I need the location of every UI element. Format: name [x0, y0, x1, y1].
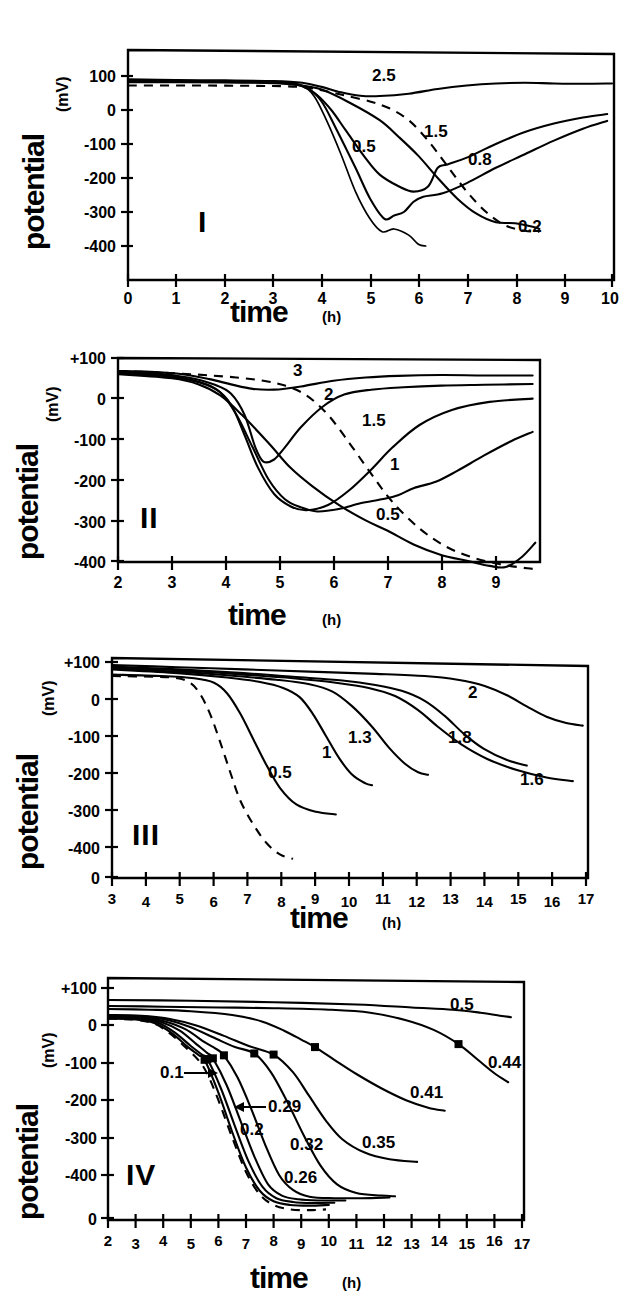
x-tick-label: 5 [176, 890, 184, 907]
x-tick-label: 5 [367, 290, 376, 307]
data-point-marker [455, 1040, 463, 1048]
y-tick-label: -200 [65, 1092, 97, 1109]
panel-III-frame [112, 658, 588, 878]
y-tick-label: 0 [91, 692, 100, 709]
curve-label-0.35: 0.35 [362, 1133, 395, 1152]
data-point-marker [220, 1051, 228, 1059]
y-tick-label: -100 [84, 136, 116, 153]
curve-label-1.5: 1.5 [424, 122, 448, 141]
data-point-marker [270, 1051, 278, 1059]
y-tick-label: -200 [84, 170, 116, 187]
x-tick-label: 10 [320, 1232, 337, 1249]
x-tick-label: 16 [486, 1232, 503, 1249]
y-tick-label: -200 [68, 766, 100, 783]
x-tick-label: 7 [384, 574, 393, 591]
panel-III-curve-labels: 2 1.8 1.6 1.3 1 0.5 [268, 683, 544, 789]
x-tick-label: 13 [403, 1235, 420, 1252]
y-axis-title: potential [17, 134, 50, 250]
curve-label-1: 1 [322, 743, 331, 762]
data-point-marker [250, 1049, 258, 1057]
x-tick-label: 5 [276, 574, 285, 591]
curve-label-0.5: 0.5 [450, 995, 474, 1014]
y-axis-unit: (mV) [44, 386, 61, 422]
panel-number: IV [126, 1158, 156, 1191]
curve-1 [112, 669, 372, 785]
panel-I-curve-labels: 2.5 1.5 0.5 0.8 0.2 [352, 66, 542, 236]
x-tick-label: 4 [142, 893, 151, 910]
x-tick-label: 8 [513, 290, 522, 307]
x-tick-label: 9 [492, 574, 501, 591]
y-tick-label: -100 [74, 432, 106, 449]
x-tick-label: 2 [114, 574, 123, 591]
panel-III: potential (mV) time (h) +100 0 -100 -200… [0, 630, 624, 930]
x-tick-label: 0 [124, 290, 133, 307]
curve-label-0.2: 0.2 [518, 217, 542, 236]
x-tick-label: 4 [159, 1232, 168, 1249]
x-axis-unit: (h) [342, 1274, 361, 1291]
x-tick-label: 12 [376, 1232, 393, 1249]
x-tick-label: 17 [514, 1235, 531, 1252]
data-point-marker [201, 1056, 209, 1064]
curve-label-0.1: 0.1 [160, 1063, 184, 1082]
curve-label-1.6: 1.6 [520, 770, 544, 789]
y-tick-label: -400 [74, 554, 106, 571]
panel-IV: potential (mV) time (h) +100 0 -100 -200… [0, 930, 624, 1295]
x-tick-label: 13 [442, 890, 459, 907]
x-tick-label: 10 [341, 893, 358, 910]
y-tick-label: 0 [88, 1211, 97, 1228]
curve-label-0.5: 0.5 [352, 137, 376, 156]
curve-label-1.3: 1.3 [348, 728, 372, 747]
y-tick-label: -400 [84, 238, 116, 255]
x-tick-label: 3 [168, 574, 177, 591]
x-tick-label: 4 [222, 574, 231, 591]
y-tick-label: +100 [70, 350, 106, 367]
x-tick-label: 4 [318, 290, 327, 307]
x-tick-label: 3 [269, 290, 278, 307]
y-tick-label: -300 [65, 1130, 97, 1147]
curve-label-1.8: 1.8 [448, 728, 472, 747]
data-point-marker [311, 1043, 319, 1051]
curve-label-0.5: 0.5 [376, 505, 400, 524]
y-tick-label: 0 [88, 1017, 97, 1034]
y-tick-label: 0 [97, 391, 106, 408]
y-tick-label: 0 [91, 870, 100, 887]
panel-II-y-ticks: +100 0 -100 -200 -300 -400 [70, 350, 124, 571]
curve-label-0.5: 0.5 [268, 763, 292, 782]
panel-I: potential (mV) time (h) 100 0 -100 -200 … [0, 0, 624, 330]
panel-I-plot: potential (mV) time (h) 100 0 -100 -200 … [0, 0, 624, 330]
curve-label-0.41: 0.41 [410, 1083, 443, 1102]
panel-number: III [132, 818, 160, 851]
y-tick-label: 0 [107, 102, 116, 119]
panel-IV-curve-labels: 0.5 0.44 0.41 0.35 0.32 0.29 0.26 0.2 0.… [160, 995, 522, 1187]
curve-label-1.5: 1.5 [362, 411, 386, 430]
y-tick-label: -300 [68, 803, 100, 820]
curve-0.5 [112, 675, 336, 815]
x-tick-label: 12 [408, 893, 425, 910]
panel-II-plot: potential (mV) time (h) +100 0 -100 -200… [0, 330, 624, 630]
curve-label-0.32: 0.32 [290, 1135, 323, 1154]
x-tick-label: 1 [172, 290, 181, 307]
x-tick-label: 7 [242, 1235, 250, 1252]
x-tick-label: 16 [544, 893, 561, 910]
x-tick-label: 6 [330, 574, 339, 591]
x-tick-label: 3 [131, 1235, 139, 1252]
x-axis-title: time [250, 1261, 308, 1294]
x-axis-unit: (h) [322, 308, 341, 325]
x-tick-label: 15 [510, 890, 527, 907]
x-tick-label: 9 [561, 290, 570, 307]
y-axis-unit: (mV) [40, 1032, 57, 1068]
x-axis-title: time [230, 295, 288, 328]
x-tick-label: 9 [311, 890, 319, 907]
curve-label-0.8: 0.8 [468, 150, 492, 169]
curve-0.5 [128, 80, 426, 246]
x-tick-label: 6 [209, 893, 217, 910]
x-axis-title: time [228, 598, 286, 630]
panel-III-curves [112, 665, 583, 859]
y-tick-label: -300 [84, 204, 116, 221]
x-tick-label: 14 [476, 893, 493, 910]
x-tick-label: 2 [221, 290, 230, 307]
y-axis-unit: (mV) [40, 680, 57, 716]
curve-label-0.26-overlap: 0.26 [284, 1168, 317, 1187]
x-tick-label: 8 [438, 574, 447, 591]
x-tick-label: 8 [277, 893, 285, 910]
